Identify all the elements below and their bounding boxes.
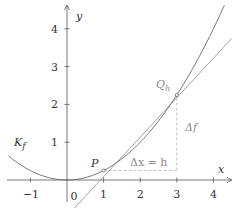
y-tick-label: 3: [51, 61, 58, 74]
x-tick-labels: −1 0 1 2 3 4: [23, 188, 217, 203]
point-q-label: Qh: [156, 78, 170, 93]
x-tick-label: 2: [137, 188, 144, 201]
y-tick-label: 2: [51, 98, 58, 111]
y-tick-label: 4: [51, 23, 58, 36]
delta-f-label: Δf: [184, 121, 199, 134]
curve-label: Kf: [13, 136, 27, 151]
x-tick-label: 1: [100, 188, 107, 201]
x-tick-label: 0: [71, 190, 78, 203]
point-q-marker: [175, 93, 178, 96]
delta-x-label: Δx = h: [130, 156, 167, 169]
axes: [7, 5, 232, 202]
point-p-label: P: [90, 157, 99, 170]
y-axis-label: y: [75, 10, 83, 23]
y-tick-label: 1: [51, 136, 58, 149]
x-tick-label: −1: [23, 188, 39, 201]
y-tick-labels: 1 2 3 4: [51, 23, 58, 150]
x-tick-label: 3: [173, 188, 180, 201]
x-tick-label: 4: [210, 188, 217, 201]
diagram-canvas: −1 0 1 2 3 4 1 2 3 4 y x P Qh Kf Δx = h …: [0, 0, 239, 214]
x-axis-label: x: [218, 163, 225, 176]
secant-line: [75, 39, 232, 209]
point-p-marker: [102, 169, 105, 172]
function-curve-precise: [8, 5, 224, 180]
